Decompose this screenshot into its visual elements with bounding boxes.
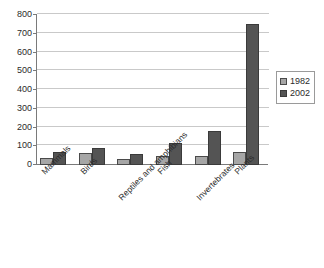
y-axis-tick-label: 600	[17, 47, 32, 56]
bar-group	[230, 15, 269, 165]
bar-group	[76, 15, 115, 165]
bar-group	[37, 15, 76, 165]
legend-item: 2002	[280, 88, 310, 99]
y-axis-tick-label: 500	[17, 66, 32, 75]
bar-2002	[246, 24, 259, 165]
legend-swatch-2002-icon	[280, 90, 287, 97]
legend-swatch-1982-icon	[280, 78, 287, 85]
chart-legend: 1982 2002	[276, 71, 315, 104]
y-axis-tick-label: 400	[17, 85, 32, 94]
bar-1982	[117, 159, 130, 165]
plot-area: 0100200300400500600700800	[36, 15, 268, 165]
bar-group	[114, 15, 153, 165]
x-axis-category-labels: MammalsBirdsReptiles and amphibiansFishI…	[36, 166, 276, 266]
y-axis-tick-label: 700	[17, 28, 32, 37]
bars-layer	[37, 15, 269, 165]
y-axis-tick-label: 800	[17, 10, 32, 19]
gridline	[37, 13, 269, 14]
legend-label-2002: 2002	[290, 89, 310, 98]
bar-2002	[130, 154, 143, 165]
y-axis-tick-label: 0	[27, 160, 32, 169]
y-axis-tick-label: 300	[17, 103, 32, 112]
bar-chart: 0100200300400500600700800 MammalsBirdsRe…	[0, 0, 324, 268]
bar-1982	[195, 156, 208, 165]
y-axis-tick-label: 200	[17, 122, 32, 131]
legend-label-1982: 1982	[290, 77, 310, 86]
y-axis-tick-label: 100	[17, 141, 32, 150]
bar-group	[192, 15, 231, 165]
legend-item: 1982	[280, 76, 310, 87]
x-axis-label: Invertebrates	[195, 161, 236, 202]
bar-2002	[208, 131, 221, 165]
